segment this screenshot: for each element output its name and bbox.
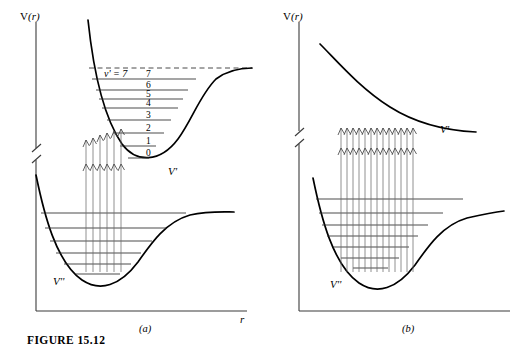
panel-b-lower-curve-v-double-prime [313,178,504,289]
panel-a-level-label-0: 0 [146,148,151,158]
potential-energy-figure: 7 6 5 4 3 2 1 0 v' = 7 V' [0,0,526,352]
panel-a-upper-levels [92,79,196,158]
panel-a-lower-levels [41,213,186,274]
figure-caption: FIGURE 15.12 [27,334,105,346]
panel-a-level-label-3: 3 [146,110,151,120]
panel-a-label: (a) [139,323,152,335]
panel-a-transition-arrows [83,129,125,272]
panel-a-upper-curve-label: V' [168,165,178,177]
panel-b-label: (b) [402,323,415,335]
panel-a-lower-curve-label: V'' [53,275,65,287]
panel-a-lower-curve-v-double-prime [36,175,234,286]
panel-a-vibrational-quantum-label: v' = 7 [104,68,128,79]
panel-b-upper-curve-v-prime-repulsive [320,44,476,132]
panel-a-x-axis-label: r [240,313,245,325]
panel-a-level-label-4: 4 [146,98,151,108]
panel-a-level-label-7: 7 [146,69,151,79]
panel-a-level-label-2: 2 [146,123,151,133]
panel-b: V' V'' [283,10,510,335]
figure-container: 7 6 5 4 3 2 1 0 v' = 7 V' [0,0,526,352]
panel-b-lower-curve-label: V'' [330,278,342,290]
panel-b-transition-arrows [338,128,417,272]
panel-b-y-axis-label: V(r) [283,10,303,23]
panel-a-upper-curve-v-prime [88,20,252,158]
panel-a-level-label-1: 1 [146,136,151,146]
panel-b-upper-curve-label: V' [440,123,450,135]
panel-a: 7 6 5 4 3 2 1 0 v' = 7 V' [20,10,252,335]
panel-a-y-axis-label: V(r) [20,10,40,23]
